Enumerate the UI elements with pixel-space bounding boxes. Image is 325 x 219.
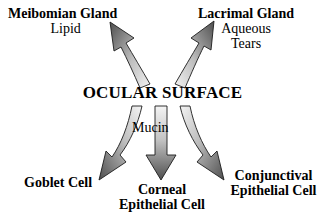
node-conjunctival-epithelial-cell-name-line1: Conjunctival (222, 168, 325, 183)
node-lacrimal-gland-name: Lacrimal Gland (198, 6, 294, 21)
node-conjunctival-epithelial-cell-name-line2: Epithelial Cell (222, 183, 325, 198)
page-title: OCULAR SURFACE (0, 83, 325, 103)
node-meibomian-gland: Meibomian Gland Lipid (8, 6, 117, 36)
node-lacrimal-gland-secretion-line1: Aqueous (198, 21, 294, 36)
arrow-to-conjunctival-epithelial-cell (180, 106, 224, 180)
node-conjunctival-epithelial-cell: Conjunctival Epithelial Cell (222, 168, 325, 198)
arrow-to-corneal-epithelial-cell (146, 106, 176, 180)
node-goblet-cell-name: Goblet Cell (24, 175, 92, 190)
mucin-label: Mucin (132, 120, 169, 135)
arrow-to-goblet-cell (99, 106, 142, 180)
node-corneal-epithelial-cell-name-line2: Epithelial Cell (100, 197, 224, 212)
node-corneal-epithelial-cell-name-line1: Corneal (100, 182, 224, 197)
node-meibomian-gland-secretion: Lipid (8, 21, 117, 36)
node-meibomian-gland-name: Meibomian Gland (8, 6, 117, 21)
node-corneal-epithelial-cell: Corneal Epithelial Cell (100, 182, 224, 212)
node-goblet-cell: Goblet Cell (24, 175, 92, 190)
node-lacrimal-gland: Lacrimal Gland Aqueous Tears (198, 6, 294, 51)
node-lacrimal-gland-secretion-line2: Tears (198, 36, 294, 51)
ocular-surface-diagram: Meibomian Gland Lipid Lacrimal Gland Aqu… (0, 0, 325, 219)
